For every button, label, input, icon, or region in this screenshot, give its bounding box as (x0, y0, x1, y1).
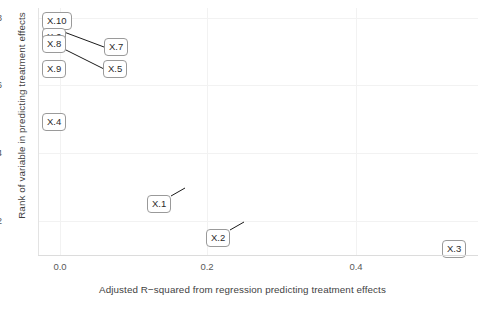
x-axis-line (38, 255, 478, 256)
y-tick-label-8: 8 (0, 13, 2, 23)
gridline-y-4 (38, 153, 478, 154)
y-axis-line (38, 8, 39, 255)
chart-canvas: X.10 X.6 X.8 X.7 X.9 X.5 X.4 X.1 X.2 (0, 0, 485, 310)
x-tick-label-0.0: 0.0 (53, 262, 66, 272)
leader-stub-x2 (230, 222, 246, 232)
gridline-x-0.2 (207, 8, 208, 255)
leader-stub-x1 (171, 188, 187, 198)
point-label-x4[interactable]: X.4 (42, 113, 66, 131)
leader-line-x7 (64, 32, 106, 50)
gridline-y-6 (38, 85, 478, 86)
leader-line-x5 (64, 49, 106, 71)
plot-panel: X.10 X.6 X.8 X.7 X.9 X.5 X.4 X.1 X.2 (38, 8, 478, 255)
point-label-x10[interactable]: X.10 (42, 12, 72, 30)
y-tick-label-6: 6 (0, 80, 2, 90)
y-axis-title: Rank of variable in predicting treatment… (16, 0, 27, 241)
x-axis-title: Adjusted R−squared from regression predi… (0, 284, 485, 295)
y-tick-label-2: 2 (0, 216, 2, 226)
x-tick-label-0.2: 0.2 (200, 262, 213, 272)
point-label-x7[interactable]: X.7 (104, 38, 128, 56)
gridline-y-8 (38, 18, 478, 19)
point-label-x9[interactable]: X.9 (42, 60, 66, 78)
point-label-x5[interactable]: X.5 (103, 60, 127, 78)
point-label-x2[interactable]: X.2 (206, 229, 230, 247)
gridline-x-0.4 (356, 8, 357, 255)
x-tick-label-0.4: 0.4 (349, 262, 362, 272)
point-label-x8[interactable]: X.8 (42, 35, 66, 53)
point-label-x1[interactable]: X.1 (147, 195, 171, 213)
y-tick-label-4: 4 (0, 148, 2, 158)
gridline-y-2 (38, 221, 478, 222)
